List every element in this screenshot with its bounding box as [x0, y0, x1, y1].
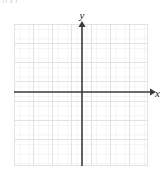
graph-canvas: f(x) — [0, 0, 165, 170]
coordinate-plane: x y — [0, 0, 165, 170]
grid-lines — [14, 24, 148, 166]
y-axis-label: y — [79, 9, 85, 21]
x-axis-label: x — [154, 87, 160, 99]
